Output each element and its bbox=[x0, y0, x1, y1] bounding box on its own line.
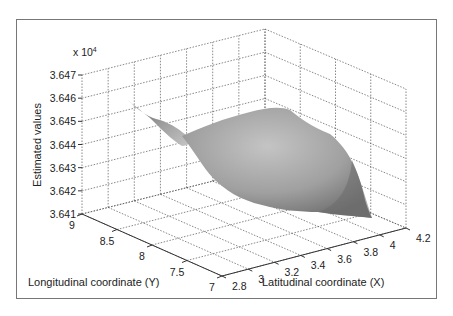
y-tick-label: 8 bbox=[139, 250, 145, 262]
x-tick-label: 3.4 bbox=[311, 259, 326, 271]
z-multiplier-label: x 104 bbox=[73, 46, 97, 58]
y-tick-label: 9 bbox=[69, 219, 75, 231]
x-tick-label: 4 bbox=[390, 239, 396, 251]
axis-line bbox=[182, 261, 187, 263]
z-tick-label: 3.643 bbox=[50, 162, 76, 174]
axis-line bbox=[301, 255, 305, 257]
axis-line bbox=[380, 235, 384, 237]
axis-line bbox=[222, 276, 226, 278]
z-tick-label: 3.642 bbox=[50, 185, 76, 197]
axis-line bbox=[275, 262, 279, 264]
axis-line bbox=[217, 276, 222, 278]
x-tick-label: 4.2 bbox=[416, 232, 431, 244]
axis-line bbox=[112, 230, 117, 232]
y-tick-label: 8.5 bbox=[100, 235, 115, 247]
z-axis-label: Estimated values bbox=[31, 103, 43, 187]
z-tick-label: 3.646 bbox=[50, 92, 76, 104]
x-axis-label: Latitudinal coordinate (X) bbox=[262, 276, 384, 288]
z-tick-label: 3.647 bbox=[50, 69, 76, 81]
axis-line bbox=[147, 245, 152, 247]
surface bbox=[128, 100, 372, 218]
axis-line bbox=[353, 242, 357, 244]
y-tick-label: 7 bbox=[209, 281, 215, 293]
x-tick-label: 3.6 bbox=[337, 253, 352, 265]
grid-line bbox=[265, 52, 406, 112]
grid-line bbox=[82, 52, 265, 98]
y-axis-label: Longitudinal coordinate (Y) bbox=[28, 276, 159, 288]
grid-line bbox=[82, 75, 265, 121]
x-tick-label: 2.8 bbox=[232, 280, 247, 292]
x-tick-label: 3.8 bbox=[363, 246, 378, 258]
axis-line bbox=[406, 228, 410, 230]
grid-line bbox=[82, 29, 265, 75]
surface-plot: 3.6413.6423.6433.6443.6453.6463.64798.58… bbox=[0, 0, 453, 316]
y-tick-label: 7.5 bbox=[170, 266, 185, 278]
axis-line bbox=[248, 269, 252, 271]
z-tick-label: 3.644 bbox=[50, 139, 76, 151]
surface-spike bbox=[128, 100, 191, 146]
axis-line bbox=[327, 249, 331, 251]
z-tick-label: 3.645 bbox=[50, 115, 76, 127]
